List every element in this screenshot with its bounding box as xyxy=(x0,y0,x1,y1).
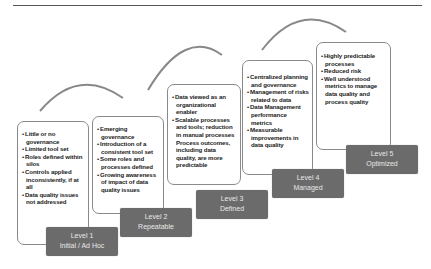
level-4-label: Level 4 Managed xyxy=(272,169,344,198)
bullet: Data viewed as an organizational enabler xyxy=(172,93,237,116)
bullet: Introduction of a consistent tool set xyxy=(97,140,160,155)
level-name: Optimized xyxy=(346,159,418,169)
level-3-label: Level 3 Defined xyxy=(196,190,268,219)
bullet: Centralized planning and governance xyxy=(247,73,309,88)
level-name: Initial / Ad Hoc xyxy=(46,241,118,251)
level-number: Level 3 xyxy=(196,194,268,204)
bullet: Controls applied inconsistently, if at a… xyxy=(22,168,85,191)
arc-arrow-1 xyxy=(40,85,123,111)
bullet: Measurable improvements in data quality xyxy=(247,126,309,149)
level-1-label: Level 1 Initial / Ad Hoc xyxy=(46,227,118,256)
level-name: Defined xyxy=(196,204,268,214)
bullet: Growing awareness of impact of data qual… xyxy=(97,171,160,194)
bullet: Management of risks related to data xyxy=(247,88,309,103)
bullet: Some roles and processes defined xyxy=(97,155,160,170)
level-2-description-box: Emerging governance Introduction of a co… xyxy=(92,116,164,214)
level-number: Level 4 xyxy=(272,173,344,183)
bullet: Reduced risk xyxy=(321,67,387,75)
bullet: Highly predictable processes xyxy=(321,52,387,67)
bullet: Data Management performance metrics xyxy=(247,103,309,126)
level-5-bullets: Highly predictable processes Reduced ris… xyxy=(321,52,387,105)
level-3-description-box: Data viewed as an organizational enabler… xyxy=(167,84,241,185)
bullet: Scalable processes and tools; reduction … xyxy=(172,116,237,169)
level-number: Level 1 xyxy=(46,231,118,241)
level-name: Repeatable xyxy=(120,222,192,232)
bullet: Roles defined within silos xyxy=(22,153,85,168)
bullet: Well understood metrics to manage data q… xyxy=(321,75,387,105)
level-number: Level 2 xyxy=(120,212,192,222)
level-name: Managed xyxy=(272,183,344,193)
level-5-label: Level 5 Optimized xyxy=(346,145,418,174)
level-2-bullets: Emerging governance Introduction of a co… xyxy=(97,125,160,193)
level-4-bullets: Centralized planning and governance Mana… xyxy=(247,73,309,149)
level-1-bullets: Little or no governance Limited tool set… xyxy=(22,130,85,206)
level-3-bullets: Data viewed as an organizational enabler… xyxy=(172,93,237,169)
bullet: Limited tool set xyxy=(22,145,85,153)
bullet: Emerging governance xyxy=(97,125,160,140)
level-5-description-box: Highly predictable processes Reduced ris… xyxy=(316,42,391,150)
level-number: Level 5 xyxy=(346,149,418,159)
bullet: Little or no governance xyxy=(22,130,85,145)
level-4-description-box: Centralized planning and governance Mana… xyxy=(242,60,313,175)
bullet: Data quality issues not addressed xyxy=(22,191,85,206)
level-2-label: Level 2 Repeatable xyxy=(120,208,192,237)
